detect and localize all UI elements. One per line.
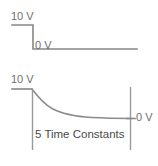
exponential-decay-curve: [32, 89, 131, 119]
waveform-figure: 10 V 0 V 10 V 0 V 5 Time Constants: [0, 0, 158, 166]
bottom-waveform-high-label: 10 V: [11, 73, 34, 85]
bottom-waveform-low-label: 0 V: [136, 111, 153, 123]
top-waveform-low-label: 0 V: [35, 39, 52, 51]
top-waveform-high-label: 10 V: [11, 10, 34, 22]
step-down-pulse-path: [12, 25, 137, 49]
time-constants-label: 5 Time Constants: [35, 128, 124, 140]
